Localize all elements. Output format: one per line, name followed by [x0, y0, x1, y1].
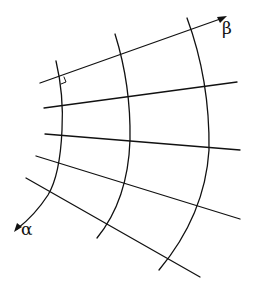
- alpha-label: α: [21, 221, 32, 238]
- beta-label: β: [222, 20, 232, 37]
- alpha-curve-2: [97, 34, 130, 238]
- beta-line-3: [45, 134, 240, 150]
- grid-svg: [0, 0, 254, 294]
- coordinate-grid-diagram: β α: [0, 0, 254, 294]
- right-angle-marker: [61, 77, 66, 84]
- beta-line-1: [40, 18, 223, 83]
- beta-line-2: [44, 82, 237, 108]
- alpha-curve-1: [17, 61, 62, 229]
- beta-line-4: [36, 156, 240, 219]
- beta-line-5: [26, 178, 200, 277]
